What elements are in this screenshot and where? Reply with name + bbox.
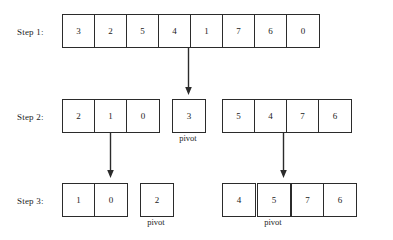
step-3-group-5: 7 6 — [291, 183, 357, 217]
step-3-group-3: 4 — [222, 183, 256, 217]
array-cell: 5 — [258, 184, 290, 216]
array-cell: 0 — [127, 100, 159, 132]
step-2-label: Step 2: — [17, 113, 44, 122]
step-3-group-1: 1 0 — [62, 183, 128, 217]
array-cell: 0 — [95, 184, 127, 216]
array-cell: 2 — [63, 100, 95, 132]
array-cell: 2 — [95, 15, 127, 47]
step-1-array: 3 2 5 4 1 7 6 0 — [62, 14, 320, 48]
array-cell: 1 — [63, 184, 95, 216]
step-3-pivot-caption-left: pivot — [140, 218, 172, 227]
arrow-step2-left-to-pivot-2 — [106, 133, 115, 179]
array-cell: 4 — [255, 100, 287, 132]
step-3-pivot-box-2: 2 — [140, 183, 174, 217]
step-2-right-array: 5 4 7 6 — [222, 99, 352, 133]
array-cell: 1 — [95, 100, 127, 132]
array-cell: 1 — [191, 15, 223, 47]
arrow-step1-to-pivot-3 — [184, 48, 193, 96]
step-2-pivot-box: 3 — [172, 99, 206, 133]
array-cell: 6 — [255, 15, 287, 47]
array-cell: 7 — [287, 100, 319, 132]
array-cell: 6 — [324, 184, 356, 216]
arrow-step2-right-to-pivot-5 — [279, 133, 288, 179]
step-1-label: Step 1: — [17, 28, 44, 37]
quicksort-partition-diagram: Step 1: 3 2 5 4 1 7 6 0 Step 2: 2 1 0 3 … — [0, 0, 393, 240]
array-cell: 4 — [223, 184, 255, 216]
step-2-left-array: 2 1 0 — [62, 99, 160, 133]
array-cell: 2 — [141, 184, 173, 216]
array-cell: 5 — [127, 15, 159, 47]
array-cell: 3 — [173, 100, 205, 132]
array-cell: 3 — [63, 15, 95, 47]
step-3-pivot-box-5: 5 — [257, 183, 291, 217]
step-2-pivot-caption: pivot — [172, 134, 204, 143]
array-cell: 7 — [292, 184, 324, 216]
array-cell: 4 — [159, 15, 191, 47]
array-cell: 0 — [287, 15, 319, 47]
array-cell: 6 — [319, 100, 351, 132]
step-3-label: Step 3: — [17, 197, 44, 206]
array-cell: 7 — [223, 15, 255, 47]
array-cell: 5 — [223, 100, 255, 132]
step-3-pivot-caption-right: pivot — [257, 218, 289, 227]
